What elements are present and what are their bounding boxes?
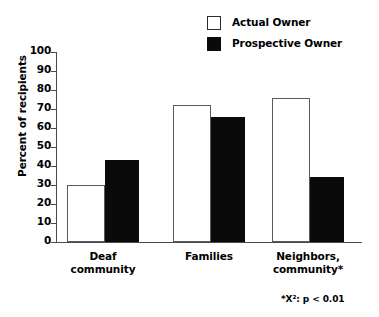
legend-item-actual-owner: Actual Owner [207, 12, 372, 33]
y-axis-title: Percent of recipients [16, 51, 28, 181]
x-axis-label-3: Neighbors,community* [248, 250, 368, 276]
y-tick-mark [51, 185, 56, 186]
y-tick-label: 70 [37, 102, 51, 113]
x-axis-label-line2: community [43, 263, 163, 276]
y-tick-mark [51, 128, 56, 129]
filled-square-swatch-icon [207, 37, 221, 51]
legend-item-prospective-owner: Prospective Owner [207, 33, 372, 54]
legend-label-prospective-owner: Prospective Owner [232, 38, 342, 49]
y-tick-label: 100 [30, 45, 51, 56]
y-tick-mark [51, 90, 56, 91]
x-axis-label-line1: Deaf [43, 250, 163, 263]
y-tick-mark [51, 242, 56, 243]
y-tick-label: 30 [37, 178, 51, 189]
y-tick-mark [51, 109, 56, 110]
legend-label-actual-owner: Actual Owner [232, 17, 310, 28]
x-axis-label-line2: community* [248, 263, 368, 276]
x-axis-label-1: Deafcommunity [43, 250, 163, 276]
y-tick-label: 50 [37, 140, 51, 151]
x-axis-line [56, 242, 362, 243]
bar-actual-owner-group-2 [173, 105, 211, 242]
y-tick-label: 60 [37, 121, 51, 132]
x-axis-label-line1: Neighbors, [248, 250, 368, 263]
bar-prospective-owner-group-1 [105, 160, 139, 242]
bar-actual-owner-group-1 [67, 185, 105, 242]
open-square-swatch-icon [207, 16, 221, 30]
y-tick-mark [51, 71, 56, 72]
y-tick-mark [51, 166, 56, 167]
y-tick-label: 0 [44, 235, 51, 246]
y-tick-label: 90 [37, 64, 51, 75]
y-tick-mark [51, 204, 56, 205]
y-tick-label: 80 [37, 83, 51, 94]
y-tick-mark [51, 223, 56, 224]
y-tick-label: 10 [37, 216, 51, 227]
bar-prospective-owner-group-3 [310, 177, 344, 242]
bar-actual-owner-group-3 [272, 98, 310, 242]
plot-area: 1009080706050403020100 [56, 52, 362, 242]
chart-footnote: *X²: p < 0.01 [281, 294, 344, 304]
bar-prospective-owner-group-2 [211, 117, 245, 242]
y-tick-mark [51, 147, 56, 148]
y-axis-line [56, 52, 57, 242]
y-tick-mark [51, 52, 56, 53]
y-tick-label: 20 [37, 197, 51, 208]
bar-chart-figure: Actual Owner Prospective Owner Percent o… [0, 0, 379, 317]
y-tick-label: 40 [37, 159, 51, 170]
chart-legend: Actual Owner Prospective Owner [207, 12, 372, 54]
